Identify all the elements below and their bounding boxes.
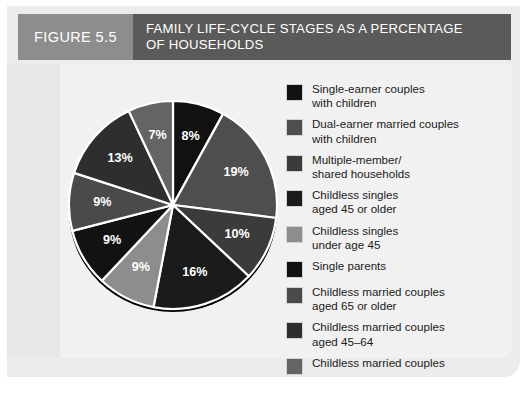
legend-item-label: Single parents: [312, 259, 386, 273]
legend-swatch-icon: [286, 190, 303, 207]
pie-slice-label: 7%: [148, 128, 166, 142]
legend-item: Dual-earner married couples with childre…: [286, 117, 518, 145]
figure-title-bar: FAMILY LIFE-CYCLE STAGES AS A PERCENTAGE…: [133, 14, 511, 60]
pie-slice-label: 13%: [107, 151, 132, 165]
legend-item-label: Childless married couples aged 45–64: [312, 320, 445, 348]
legend-item-label: Dual-earner married couples with childre…: [312, 117, 459, 145]
legend-item-label: Single-earner couples with children: [312, 82, 425, 110]
legend-item: Single parents: [286, 259, 518, 278]
legend-item: Multiple-member/ shared households: [286, 153, 518, 181]
pie-slice-label: 16%: [182, 265, 207, 279]
legend-swatch-icon: [286, 155, 303, 172]
legend-item: Childless married couples aged 45–64: [286, 320, 518, 348]
legend-swatch-icon: [286, 358, 303, 375]
figure-header: FIGURE 5.5 FAMILY LIFE-CYCLE STAGES AS A…: [18, 14, 511, 60]
legend-swatch-icon: [286, 322, 303, 339]
figure-number-tab: FIGURE 5.5: [18, 14, 133, 60]
pie-chart: 8%19%10%16%9%9%9%13%7%: [66, 99, 280, 315]
legend-item: Childless singles under age 45: [286, 224, 518, 252]
legend-item-label: Childless married couples: [312, 356, 445, 370]
pie-chart-svg: 8%19%10%16%9%9%9%13%7%: [66, 99, 280, 315]
legend: Single-earner couples with childrenDual-…: [286, 82, 518, 382]
legend-item-label: Childless married couples aged 65 or old…: [312, 285, 445, 313]
figure-number-label: FIGURE 5.5: [34, 29, 117, 45]
pie-slice-label: 9%: [93, 195, 111, 209]
pie-slice-label: 8%: [181, 129, 199, 143]
legend-swatch-icon: [286, 287, 303, 304]
left-margin-strip: [7, 64, 60, 358]
legend-item: Single-earner couples with children: [286, 82, 518, 110]
legend-item-label: Childless singles aged 45 or older: [312, 188, 398, 216]
figure-page: FIGURE 5.5 FAMILY LIFE-CYCLE STAGES AS A…: [0, 0, 527, 400]
legend-swatch-icon: [286, 261, 303, 278]
legend-swatch-icon: [286, 84, 303, 101]
legend-item: Childless singles aged 45 or older: [286, 188, 518, 216]
legend-item: Childless married couples: [286, 356, 518, 375]
page-title: FAMILY LIFE-CYCLE STAGES AS A PERCENTAGE…: [146, 21, 476, 54]
legend-item-label: Childless singles under age 45: [312, 224, 398, 252]
pie-slice-label: 19%: [223, 165, 248, 179]
legend-item: Childless married couples aged 65 or old…: [286, 285, 518, 313]
legend-swatch-icon: [286, 226, 303, 243]
pie-slice-label: 10%: [224, 227, 249, 241]
pie-slice-label: 9%: [103, 233, 121, 247]
legend-item-label: Multiple-member/ shared households: [312, 153, 410, 181]
legend-swatch-icon: [286, 119, 303, 136]
pie-slice-label: 9%: [132, 260, 150, 274]
